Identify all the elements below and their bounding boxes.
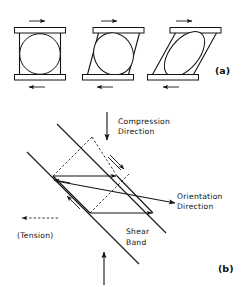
bottom-plate [148, 75, 199, 81]
cell-undeformed [15, 21, 66, 87]
construction-line-upper-right [92, 137, 117, 176]
shear-band-label-line2: Band [126, 238, 147, 247]
figure-container: (a) Compression Direction Orientation Di… [0, 0, 249, 287]
top-plate [93, 28, 144, 34]
shear-band-upper-boundary [57, 124, 166, 233]
bottom-plate [15, 75, 66, 81]
shear-sense-arrow-upper-icon [110, 155, 124, 169]
shear-band-lower-boundary [27, 152, 139, 264]
shear-band-label-line1: Shear [126, 227, 150, 236]
cell-partly-sheared [83, 21, 145, 87]
orientation-direction-label-line1: Orientation [177, 192, 223, 201]
technical-diagram: (a) Compression Direction Orientation Di… [0, 0, 249, 287]
inclusion-ellipse [87, 26, 141, 82]
parallelogram-right-side [117, 176, 153, 213]
panel-a-label: (a) [215, 65, 230, 76]
compression-direction-label-line1: Compression [118, 117, 170, 126]
tension-label: (Tension) [17, 231, 54, 240]
top-plate [15, 28, 66, 34]
cell-fully-sheared [148, 21, 222, 87]
orientation-arrow-icon [56, 181, 175, 203]
construction-line-upper-left [53, 137, 92, 176]
compression-direction-label-line2: Direction [118, 127, 155, 136]
panel-b-label: (b) [218, 263, 233, 274]
orientation-direction-label-line2: Direction [177, 202, 214, 211]
bottom-plate [83, 75, 134, 81]
inclusion-circle [20, 34, 61, 75]
